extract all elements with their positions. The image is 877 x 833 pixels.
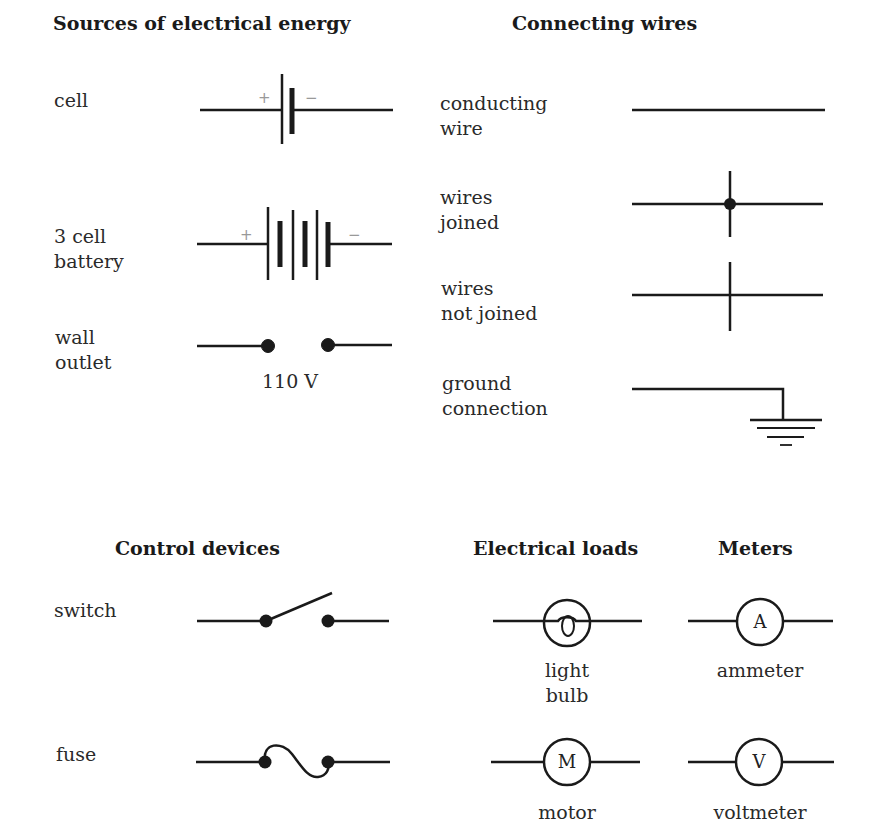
wires-not-joined-icon xyxy=(632,262,823,331)
label-ground-connection: ground connection xyxy=(442,371,548,421)
caption-light-bulb: light bulb xyxy=(527,658,607,708)
caption-voltmeter: voltmeter xyxy=(700,800,820,825)
voltmeter-letter: V xyxy=(752,751,767,772)
label-fuse: fuse xyxy=(56,742,96,767)
switch-icon xyxy=(197,593,389,628)
caption-ammeter: ammeter xyxy=(705,658,815,683)
heading-meters: Meters xyxy=(718,537,793,559)
motor-icon xyxy=(491,739,640,785)
label-battery: 3 cell battery xyxy=(54,224,124,274)
ammeter-icon xyxy=(688,599,833,645)
light-bulb-icon xyxy=(493,600,642,646)
label-wall-outlet: wall outlet xyxy=(55,325,111,375)
fuse-icon xyxy=(196,745,390,777)
heading-wires: Connecting wires xyxy=(512,12,697,34)
minus-sign: − xyxy=(305,89,318,107)
wire-symbols xyxy=(0,0,877,833)
ammeter-letter: A xyxy=(753,611,768,632)
battery-symbol-icon: + − xyxy=(0,0,877,833)
meter-symbols: A V xyxy=(0,0,877,833)
plus-sign: + xyxy=(258,89,271,107)
load-symbols: M xyxy=(0,0,877,833)
caption-110v: 110 V xyxy=(262,369,318,394)
plus-sign: + xyxy=(240,226,253,244)
voltmeter-icon xyxy=(688,739,834,785)
label-wires-not-joined: wires not joined xyxy=(441,276,537,326)
minus-sign: − xyxy=(348,226,361,244)
cell-symbol-icon: + − xyxy=(0,0,877,833)
label-cell: cell xyxy=(54,88,88,113)
caption-motor: motor xyxy=(517,800,617,825)
heading-electrical-loads: Electrical loads xyxy=(473,537,638,559)
heading-sources: Sources of electrical energy xyxy=(53,12,351,34)
label-switch: switch xyxy=(54,598,117,623)
wires-joined-icon xyxy=(632,171,823,237)
motor-letter: M xyxy=(558,751,576,772)
label-wires-joined: wires joined xyxy=(440,185,499,235)
label-conducting-wire: conducting wire xyxy=(440,91,547,141)
control-symbols xyxy=(0,0,877,833)
heading-control-devices: Control devices xyxy=(115,537,280,559)
ground-icon xyxy=(632,389,822,445)
wall-outlet-symbol-icon xyxy=(0,0,877,833)
